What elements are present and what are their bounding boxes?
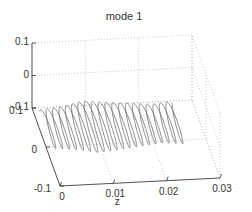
x-tick (167, 177, 169, 181)
x-tick (113, 179, 115, 183)
v-tick-label: 0 (23, 69, 29, 80)
v-tick-label: 0.1 (15, 36, 29, 47)
grid-line-back-v (32, 68, 192, 76)
x-axis-label: z (115, 196, 120, 207)
grid-line-side-v (192, 68, 220, 146)
x-tick-label: 0 (59, 191, 65, 202)
chart-title: mode 1 (106, 10, 143, 22)
v-tick-label: -0.1 (12, 101, 30, 112)
x-tick (60, 182, 62, 186)
x-tick-label: 0.02 (159, 186, 179, 197)
chart-3d: mode 1 00.010.020.03-0.100.1-0.100.1z (0, 0, 252, 212)
x-tick-label: 0.03 (212, 183, 232, 194)
grid-line-back-v (32, 35, 192, 43)
y-tick-label: 0 (31, 144, 37, 155)
y-tick-label: -0.1 (34, 183, 52, 194)
x-axis-line (60, 178, 220, 186)
helix-line (40, 101, 183, 152)
helix-series (40, 101, 183, 152)
